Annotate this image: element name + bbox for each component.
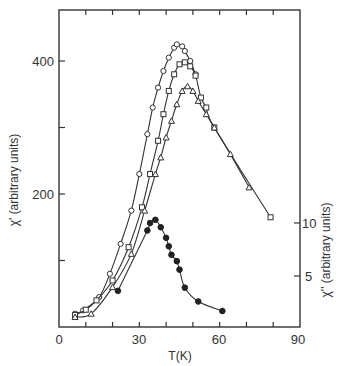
series-0 xyxy=(72,42,198,317)
marker-open-circle xyxy=(174,42,179,47)
series-1 xyxy=(73,60,273,318)
marker-open-circle xyxy=(129,208,134,213)
marker-open-square xyxy=(156,138,161,143)
marker-open-triangle xyxy=(203,111,209,117)
marker-filled-circle xyxy=(145,228,151,234)
marker-open-circle xyxy=(150,105,155,110)
marker-open-square xyxy=(161,112,166,117)
x-tick-0: 0 xyxy=(55,332,62,347)
marker-filled-circle xyxy=(220,308,226,314)
marker-open-triangle xyxy=(185,83,191,89)
marker-open-square xyxy=(166,88,171,93)
marker-open-circle xyxy=(188,58,193,63)
marker-open-square xyxy=(193,73,198,78)
marker-open-square xyxy=(83,307,88,312)
marker-open-square xyxy=(126,245,131,250)
marker-open-square xyxy=(177,62,182,67)
marker-filled-circle xyxy=(153,217,159,223)
series-3 xyxy=(115,217,225,314)
marker-open-triangle xyxy=(168,118,174,124)
marker-filled-circle xyxy=(169,252,175,258)
marker-filled-circle xyxy=(177,267,183,273)
marker-open-circle xyxy=(137,171,142,176)
marker-open-triangle xyxy=(163,134,169,140)
x-tick-30: 30 xyxy=(132,332,146,347)
marker-open-circle xyxy=(118,241,123,246)
marker-open-circle xyxy=(182,48,187,53)
y2-tick-5: 5 xyxy=(305,269,312,284)
y-tick-200: 200 xyxy=(32,187,54,202)
x-axis-label: T(K) xyxy=(168,349,191,363)
marker-filled-circle xyxy=(163,235,169,241)
marker-filled-circle xyxy=(158,224,164,230)
marker-open-circle xyxy=(155,85,160,90)
marker-open-square xyxy=(148,172,153,177)
series-layer xyxy=(72,42,273,320)
x-tick-90: 90 xyxy=(291,332,305,347)
marker-open-triangle xyxy=(158,154,164,160)
axis-ticks xyxy=(59,10,300,327)
marker-filled-circle xyxy=(182,285,188,291)
marker-filled-circle xyxy=(147,220,153,226)
marker-open-square xyxy=(188,64,193,69)
y2-axis-label: χ'' (arbitrary units) xyxy=(319,203,333,298)
marker-open-square xyxy=(268,215,273,220)
marker-open-square xyxy=(94,298,99,303)
plot-frame xyxy=(59,10,300,327)
marker-filled-circle xyxy=(174,258,180,264)
marker-open-circle xyxy=(166,55,171,60)
marker-open-triangle xyxy=(152,171,158,177)
marker-filled-circle xyxy=(115,288,121,294)
marker-open-square xyxy=(204,105,209,110)
marker-open-circle xyxy=(107,271,112,276)
y2-tick-10: 10 xyxy=(302,216,316,231)
marker-open-circle xyxy=(145,132,150,137)
marker-filled-circle xyxy=(195,299,201,305)
y-tick-400: 400 xyxy=(32,54,54,69)
marker-open-triangle xyxy=(174,101,180,107)
marker-open-circle xyxy=(161,68,166,73)
y-axis-label: χ' (arbitrary units) xyxy=(7,134,21,227)
chart: 0 30 60 90 T(K) 200 400 χ' (arbitrary un… xyxy=(0,0,339,366)
marker-open-square xyxy=(182,60,187,65)
marker-open-square xyxy=(110,278,115,283)
marker-open-triangle xyxy=(128,251,134,257)
x-tick-60: 60 xyxy=(212,332,226,347)
marker-open-triangle xyxy=(227,151,233,157)
marker-filled-circle xyxy=(166,244,172,250)
marker-open-square xyxy=(172,72,177,77)
plot-border xyxy=(59,10,300,327)
